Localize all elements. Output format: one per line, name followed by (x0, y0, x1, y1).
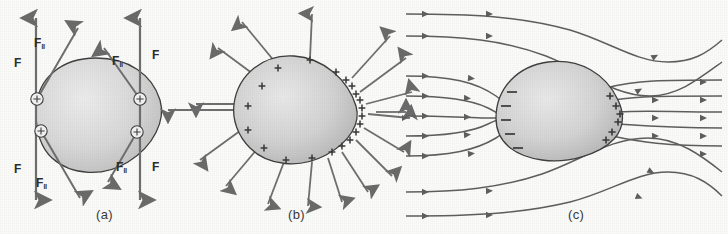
radial-arrow-8 (308, 162, 312, 206)
radial-arrow-7 (268, 162, 284, 204)
charge-upper-right (134, 93, 146, 105)
panel-b-graphic (160, 0, 410, 234)
exit-field-line-2 (618, 111, 722, 112)
label-f-parallel-top-right: F‖ (112, 54, 123, 69)
charge-upper-left (31, 93, 43, 105)
radial-arrow-5 (200, 128, 244, 160)
electrostatics-figure: F F‖ F‖ F F F‖ F‖ F (0, 0, 728, 234)
panel-b (160, 0, 410, 234)
field-arrowhead-19 (650, 52, 659, 61)
surface-charge-plus-14 (359, 105, 366, 112)
radial-arrow-2 (310, 14, 312, 58)
radial-arrow-13 (364, 128, 404, 152)
label-f-bottom-left: F (14, 162, 21, 177)
field-arrowhead-6 (468, 75, 476, 82)
field-arrowhead-22 (635, 193, 644, 202)
label-f-bottom-right: F (152, 160, 159, 175)
body-outline-c (496, 61, 622, 160)
exit-field-line-1 (614, 96, 722, 100)
radial-arrow-14 (356, 140, 392, 176)
field-arrowhead-12 (464, 131, 471, 138)
charge-lower-right (131, 126, 143, 138)
charge-lower-left (35, 125, 47, 137)
field-line-9 (406, 172, 722, 216)
radial-arrow-15 (342, 152, 368, 192)
label-f-top-right: F (152, 48, 159, 63)
surface-charge-plus-12 (353, 91, 360, 98)
field-arrowhead-4 (486, 33, 493, 39)
field-arrowhead-25 (652, 97, 659, 103)
field-arrowhead-15 (422, 189, 429, 195)
field-arrowhead-11 (422, 133, 429, 139)
field-arrowhead-28 (700, 133, 707, 139)
field-line-5 (406, 116, 510, 118)
field-arrowhead-26 (700, 97, 707, 103)
surface-charge-plus-15 (359, 113, 366, 120)
radial-arrow-6 (226, 148, 258, 186)
field-arrowhead-14 (468, 150, 476, 157)
label-f-parallel-bottom-left: F‖ (36, 176, 47, 191)
field-arrowhead-1 (422, 11, 429, 17)
field-arrowhead-7 (422, 93, 429, 99)
caption-panel-a: (a) (96, 207, 113, 222)
field-arrowhead-13 (422, 153, 429, 159)
field-arrowhead-20 (634, 86, 643, 95)
field-arrowhead-10 (464, 114, 471, 120)
surface-charge-plus-16 (357, 121, 364, 128)
field-arrowhead-9 (422, 113, 429, 119)
field-arrowhead-30 (700, 151, 707, 157)
field-arrowhead-3 (422, 33, 429, 39)
panel-c-graphic (400, 0, 728, 234)
field-arrowhead-5 (422, 73, 429, 79)
label-f-top-left: F (14, 56, 21, 71)
exit-field-line-3 (618, 124, 722, 128)
surface-charge-plus-13 (357, 97, 364, 104)
field-arrowhead-17 (422, 213, 429, 219)
label-f-parallel-top-left: F‖ (34, 36, 45, 51)
field-arrowhead-23 (652, 115, 659, 121)
caption-panel-b: (b) (288, 207, 305, 222)
radial-arrow-16 (328, 158, 342, 202)
radial-arrow-9 (352, 36, 390, 78)
field-arrowhead-24 (700, 115, 707, 121)
field-arrowhead-18 (486, 212, 493, 219)
field-arrowhead-16 (486, 188, 493, 195)
label-f-parallel-bottom-right: F‖ (116, 160, 127, 175)
caption-panel-c: (c) (568, 207, 584, 222)
panel-c (400, 0, 728, 234)
surface-charge-plus-11 (349, 83, 356, 90)
